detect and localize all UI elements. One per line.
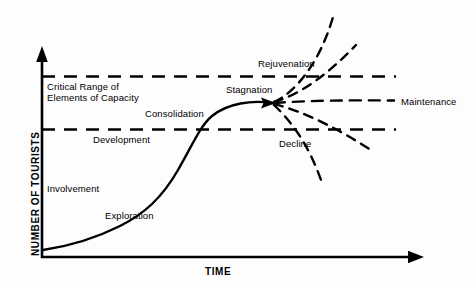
maintenance-curve [274,100,394,103]
life-cycle-curve [43,102,272,250]
stage-label-rejuvenation: Rejuvenation [258,58,315,69]
x-axis-label: TIME [205,266,231,277]
stage-label-exploration: Exploration [105,210,154,221]
stage-label-development: Development [93,134,150,145]
stage-label-stagnation: Stagnation [226,84,272,95]
stage-label-consolidation: Consolidation [145,108,204,119]
critical-range-label: Critical Range of Elements of Capacity [47,82,139,103]
stage-label-decline: Decline [279,138,311,149]
life-cycle-diagram [0,0,476,288]
critical-range-label-line1: Critical Range of [47,82,139,93]
y-axis-label: NUMBER OF TOURISTS [30,131,41,256]
x-axis [41,251,424,263]
stage-label-maintenance: Maintenance [401,96,457,107]
stage-label-involvement: Involvement [47,183,99,194]
tourism-life-cycle-figure: Critical Range of Elements of Capacity E… [0,0,476,288]
critical-range-label-line2: Elements of Capacity [47,93,139,104]
